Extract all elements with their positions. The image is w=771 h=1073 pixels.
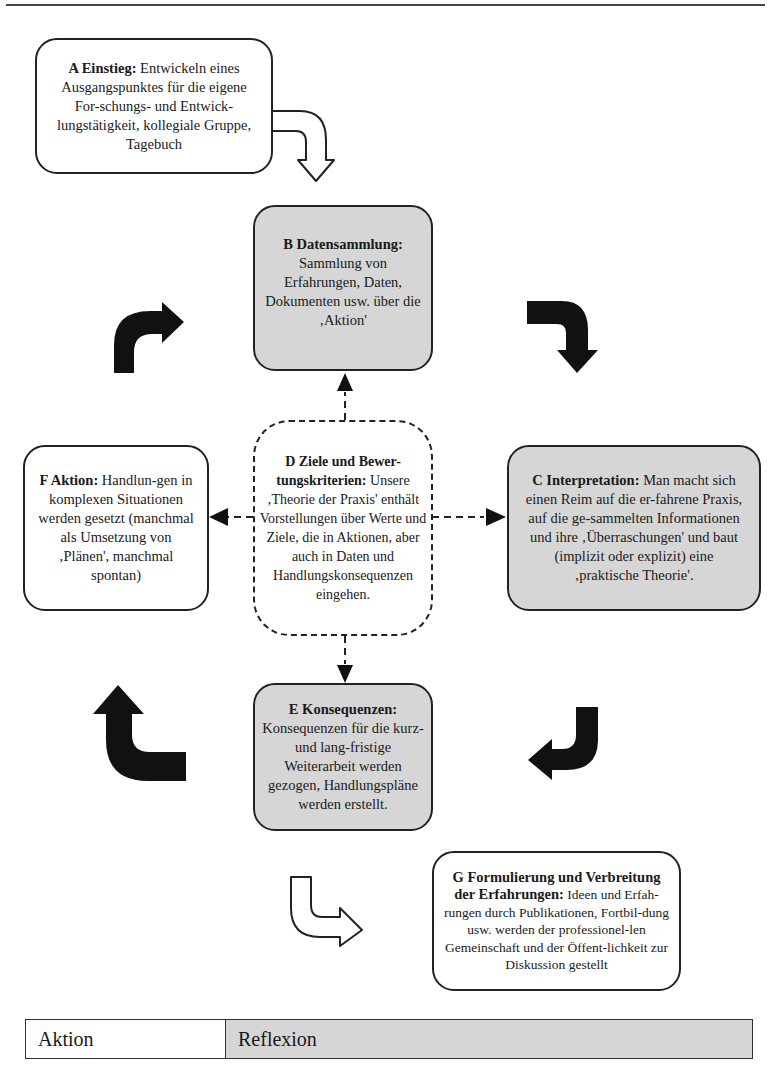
node-f-aktion: F Aktion: Handlun-gen in komplexen Situa… — [23, 445, 209, 611]
node-b-title: B Datensammlung: — [283, 236, 403, 252]
node-e-konsequenzen: E Konsequenzen: Konsequenzen für die kur… — [253, 683, 433, 831]
arrowhead-down-icon — [337, 665, 353, 683]
arrowhead-left-icon — [209, 508, 228, 526]
node-g-formulierung: G Formulierung und Verbreitung der Erfah… — [432, 851, 681, 991]
node-e-body: Konsequenzen für die kurz- und lang-fris… — [262, 720, 423, 812]
solid-curved-arrow-icon — [93, 685, 186, 781]
solid-curved-arrow-icon — [114, 302, 184, 373]
node-d-body: Unsere ‚Theorie der Praxis' enthält Vors… — [260, 473, 427, 602]
arrowhead-up-icon — [337, 373, 353, 391]
solid-curved-arrow-icon — [527, 301, 598, 373]
node-b-datensammlung: B Datensammlung: Sammlung von Erfahrunge… — [253, 205, 433, 371]
node-c-title: C Interpretation: — [532, 472, 639, 488]
arrowhead-right-icon — [486, 508, 506, 526]
node-f-body: Handlun-gen in komplexen Situationen wer… — [38, 472, 193, 583]
node-d-ziele: D Ziele und Bewer-tungskriterien: Unsere… — [253, 420, 433, 636]
node-a-title: A Einstieg: — [68, 60, 136, 76]
node-c-interpretation: C Interpretation: Man macht sich einen R… — [507, 445, 761, 611]
legend-reflexion: Reflexion — [226, 1020, 752, 1058]
hollow-curved-arrow-icon — [291, 877, 362, 946]
hollow-curved-arrow-icon — [266, 111, 334, 181]
solid-curved-arrow-icon — [528, 707, 598, 780]
node-a-einstieg: A Einstieg: Entwickeln eines Ausgangspun… — [35, 38, 273, 174]
node-f-title: F Aktion: — [40, 472, 99, 488]
legend-aktion: Aktion — [26, 1020, 226, 1058]
legend-table: Aktion Reflexion — [25, 1019, 753, 1059]
node-e-title: E Konsequenzen: — [289, 701, 397, 717]
node-c-body: Man macht sich einen Reim auf die er-fah… — [526, 472, 742, 583]
node-b-body: Sammlung von Erfahrungen, Daten, Dokumen… — [265, 255, 420, 328]
